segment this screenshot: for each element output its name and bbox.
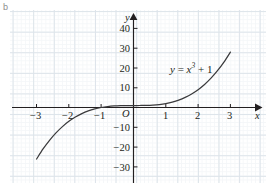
y-tick-label-40: 40 (113, 23, 130, 34)
y-tick-label-30: 30 (113, 43, 130, 54)
y-tick-label-20: 20 (113, 63, 130, 74)
y-axis-name: y (125, 12, 130, 23)
plot-canvas (0, 0, 266, 183)
x-tick-label-2: 2 (195, 110, 200, 121)
x-tick-label-3: 3 (227, 110, 232, 121)
y-tick-label-10: 10 (113, 82, 130, 93)
y-axis-ticks (134, 28, 138, 167)
equation-annotation: y = x3 + 1 (170, 60, 212, 75)
x-tick-label-1: 1 (163, 110, 168, 121)
x-tick-label-neg2: −2 (62, 110, 73, 121)
y-tick-label-neg30: −30 (107, 162, 130, 173)
y-tick-label-neg10: −10 (107, 122, 130, 133)
x-axis-name: x (255, 110, 260, 121)
y-tick-label-neg20: −20 (107, 142, 130, 153)
y-axis-arrowhead (130, 13, 138, 20)
x-tick-label-neg1: −1 (94, 110, 105, 121)
origin-label: O (122, 108, 130, 119)
graph-figure: b −3 −2 −1 1 (0, 0, 266, 183)
x-tick-label-neg3: −3 (30, 110, 41, 121)
